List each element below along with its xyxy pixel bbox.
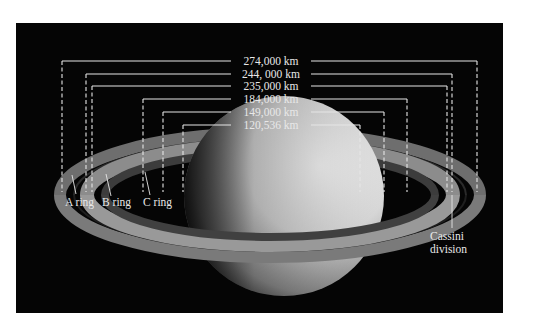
label-149000: 149,000 km: [244, 106, 299, 119]
label-120536: 120,536 km: [244, 119, 299, 132]
label-274000: 274,000 km: [244, 55, 299, 68]
label-b-ring: B ring: [102, 196, 131, 209]
label-a-ring: A ring: [65, 196, 94, 209]
measurement-labels: 274,000 km 244, 000 km 235,000 km 184,00…: [242, 55, 300, 132]
label-235000: 235,000 km: [244, 80, 299, 93]
label-c-ring: C ring: [143, 196, 172, 209]
saturn-diagram: 274,000 km 244, 000 km 235,000 km 184,00…: [0, 0, 548, 331]
label-cassini-2: division: [430, 243, 467, 255]
label-184000: 184,000 km: [244, 93, 299, 106]
label-cassini-1: Cassini: [430, 230, 464, 242]
